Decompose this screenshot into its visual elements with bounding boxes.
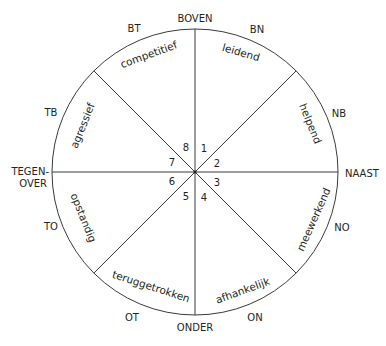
segment-label-helpend: helpend <box>297 102 324 146</box>
label-tegenover-1: TEGEN- <box>10 166 49 177</box>
label-onder: ONDER <box>177 322 213 333</box>
segment-label-competitief: competitief <box>118 38 179 70</box>
segment-number-7: 7 <box>169 157 175 168</box>
label-ot: OT <box>125 312 140 323</box>
label-boven: BOVEN <box>177 13 212 24</box>
segment-number-1: 1 <box>201 143 207 154</box>
segment-number-2: 2 <box>214 158 220 169</box>
segment-label-leidend: leidend <box>221 41 262 63</box>
segment-number-4: 4 <box>201 192 207 203</box>
segment-number-6: 6 <box>169 176 175 187</box>
label-no: NO <box>334 222 349 233</box>
segment-label-meewerkend: meewerkend <box>294 186 333 253</box>
label-tegenover-2: OVER <box>19 178 47 189</box>
label-naast: NAAST <box>345 168 380 179</box>
label-tb: TB <box>44 107 58 118</box>
segment-label-teruggetrokken: teruggetrokken <box>111 268 192 304</box>
label-bn: BN <box>250 24 264 35</box>
interpersonal-circle-diagram: BOVEN ONDER TEGEN- OVER NAAST BT BN NB N… <box>0 0 386 346</box>
label-to: TO <box>43 221 58 232</box>
segment-label-opstandig: opstandig <box>68 191 99 244</box>
label-on: ON <box>247 312 262 323</box>
segment-label-agressief: agressief <box>68 101 97 150</box>
label-nb: NB <box>332 108 346 119</box>
segment-number-8: 8 <box>183 142 189 153</box>
segment-number-3: 3 <box>214 177 220 188</box>
diagram-svg: BOVEN ONDER TEGEN- OVER NAAST BT BN NB N… <box>0 0 386 346</box>
segment-label-afhankelijk: afhankelijk <box>214 275 272 306</box>
label-bt: BT <box>128 23 142 34</box>
center-point <box>194 171 197 174</box>
segment-number-5: 5 <box>183 191 189 202</box>
